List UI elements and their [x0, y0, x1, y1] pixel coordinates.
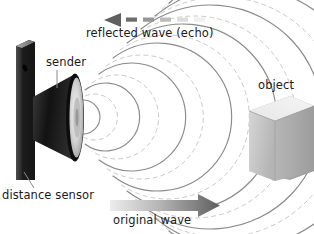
reflected-wave-arrow: [104, 13, 205, 27]
label-object: object: [258, 79, 294, 92]
label-distance-sensor: distance sensor: [2, 189, 94, 202]
label-original-wave: original wave: [113, 214, 191, 227]
label-reflected-wave: reflected wave (echo): [86, 27, 214, 40]
label-sender: sender: [46, 56, 86, 69]
ultrasonic-sensor-diagram: reflected wave (echo) sender distance se…: [0, 0, 314, 234]
